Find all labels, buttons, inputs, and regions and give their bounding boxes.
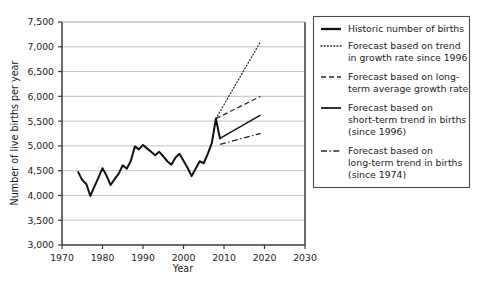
y-tick-label: 7,500 <box>27 16 54 27</box>
legend-item-longterm-trend[interactable]: Forecast based on long-term trend in bir… <box>321 145 462 180</box>
y-tick-label: 3,000 <box>27 239 54 250</box>
legend-label-shortterm-line1: Forecast based on <box>348 102 433 113</box>
legend-item-longterm-average-growth[interactable]: Forecast based on long- term average gro… <box>321 71 469 94</box>
y-tick-label: 5,500 <box>27 116 54 127</box>
x-axis: 1970198019902000201020202030 <box>50 245 317 263</box>
y-tick-label: 6,500 <box>27 66 54 77</box>
y-tick-label: 4,500 <box>27 165 54 176</box>
legend-label-longterm-line1: Forecast based on <box>348 145 433 156</box>
x-tick-label: 2010 <box>212 252 236 263</box>
legend-item-shortterm-trend[interactable]: Forecast based on short-term trend in bi… <box>321 102 466 137</box>
births-forecast-chart: 3,0003,5004,0004,5005,0005,5006,0006,500… <box>0 0 483 290</box>
y-tick-label: 3,500 <box>27 215 54 226</box>
y-tick-label: 7,000 <box>27 41 54 52</box>
chart-canvas: 3,0003,5004,0004,5005,0005,5006,0006,500… <box>0 0 483 290</box>
legend-label-historic-line1: Historic number of births <box>348 23 464 34</box>
series-historic-births <box>78 119 220 196</box>
x-axis-title: Year <box>172 263 193 274</box>
y-axis-title: Number of live births per year <box>9 61 20 206</box>
legend-label-longavg-line2: term average growth rate <box>348 83 469 94</box>
data-series-group <box>78 42 260 196</box>
legend-label-longavg-line1: Forecast based on long- <box>348 71 459 82</box>
legend-label-longterm-line3: (since 1974) <box>348 169 406 180</box>
series-forecast-shortterm-trend <box>220 115 261 138</box>
legend-item-historic[interactable]: Historic number of births <box>321 23 464 34</box>
legend: Historic number of births Forecast based… <box>314 17 470 188</box>
y-tick-label: 6,000 <box>27 91 54 102</box>
y-tick-label: 5,000 <box>27 140 54 151</box>
y-tick-label: 4,000 <box>27 190 54 201</box>
x-tick-label: 1970 <box>50 252 74 263</box>
legend-label-growth-line2: in growth rate since 1996 <box>348 52 467 63</box>
x-tick-label: 2020 <box>253 252 277 263</box>
legend-label-shortterm-line3: (since 1996) <box>348 126 406 137</box>
x-tick-label: 2030 <box>293 252 317 263</box>
x-tick-label: 1980 <box>91 252 115 263</box>
x-tick-label: 1990 <box>131 252 155 263</box>
legend-label-shortterm-line2: short-term trend in births <box>348 114 466 125</box>
y-axis: 3,0003,5004,0004,5005,0005,5006,0006,500… <box>27 16 62 250</box>
gridlines <box>62 22 305 220</box>
plot-frame <box>62 22 305 245</box>
legend-item-growth-rate-trend[interactable]: Forecast based on trend in growth rate s… <box>321 40 467 63</box>
x-tick-label: 2000 <box>172 252 196 263</box>
legend-label-longterm-line2: long-term trend in births <box>348 157 462 168</box>
legend-label-growth-line1: Forecast based on trend <box>348 40 461 51</box>
